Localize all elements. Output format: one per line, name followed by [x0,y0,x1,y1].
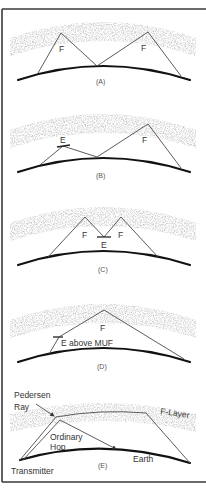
panel-a: F F (A) [10,22,196,86]
panel-b: E F (B) [10,114,196,180]
transmitter-label: Transmitter [11,466,54,476]
panel-caption: (D) [97,363,107,371]
propagation-diagram: F F (A) E F (B) F E F (C) F E above MUF … [0,0,206,488]
f-layer-label: F [100,323,105,333]
earth-surface [20,449,190,463]
ordinary-label: Ordinary [50,432,83,442]
f-layer-label: F [142,135,147,145]
earth-label: Earth [133,454,154,464]
ionosphere-haze [10,114,196,148]
panel-c: F E F (C) [10,207,196,274]
earth-surface [18,348,190,362]
panel-caption: (A) [96,78,105,86]
pedersen-label: Pedersen [14,390,51,400]
earth-surface [18,251,190,265]
e-layer-marker [57,145,70,147]
panel-caption: (E) [98,462,107,470]
e-above-muf-label: E above MUF [61,338,113,348]
e-layer-label: E [101,240,107,250]
panel-d: F E above MUF (D) [10,304,196,371]
f-layer-label: F [82,230,87,240]
panel-e: Pedersen Ray F-Layer Ordinary Hop Earth … [10,390,196,476]
ray-label: Ray [14,402,30,412]
ionosphere-haze [10,22,196,56]
panel-caption: (C) [98,266,108,274]
f-layer-label: F [59,44,64,54]
f-layer-label: F [118,230,123,240]
hop-label: Hop [50,442,66,452]
earth-surface [18,158,190,172]
f-layer-label: F [141,43,146,53]
panel-caption: (B) [96,172,105,180]
e-layer-label: E [60,135,66,145]
